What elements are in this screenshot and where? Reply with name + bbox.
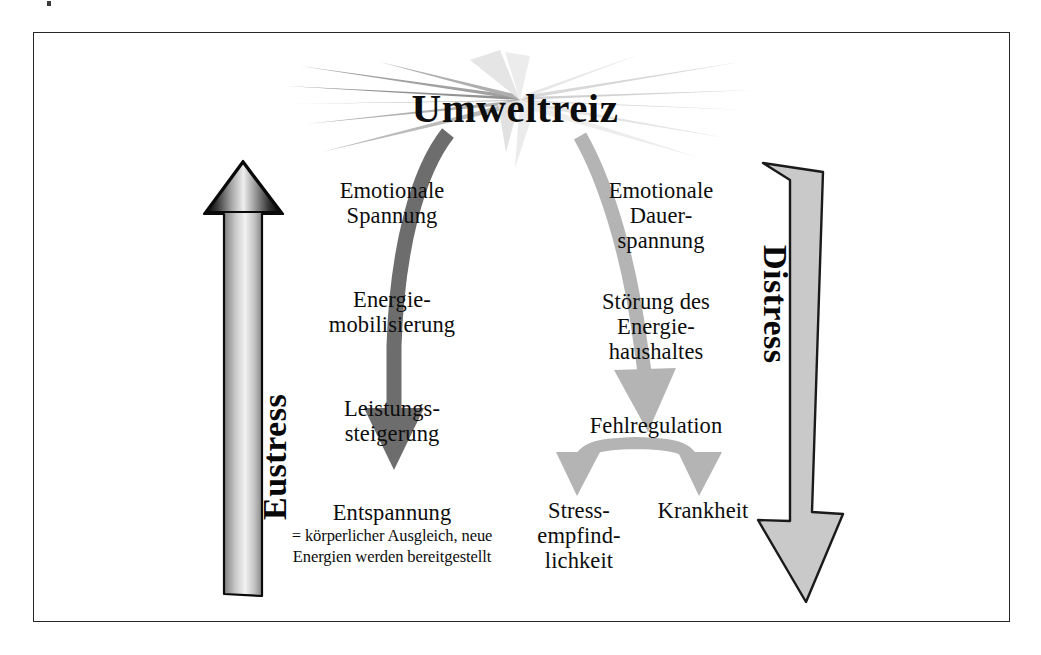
node-emotionale-spannung: Emotionale Spannung (297, 178, 487, 228)
node-entspannung-detail: = körperlicher Ausgleich, neue Energien … (272, 526, 512, 567)
node-krankheit: Krankheit (633, 498, 773, 523)
eustress-label: Eustress (256, 394, 294, 520)
node-emotionale-dauerspannung: Emotionale Dauer- spannung (566, 178, 756, 254)
node-entspannung: Entspannung (297, 500, 487, 525)
node-leistungssteigerung: Leistungs- steigerung (297, 396, 487, 446)
figure-canvas: Umweltreiz Emotionale Spannung Energie- … (0, 0, 1041, 655)
node-energiemobilisierung: Energie- mobilisierung (287, 287, 497, 337)
page-title: Umweltreiz (365, 86, 665, 132)
node-fehlregulation: Fehlregulation (546, 413, 766, 438)
distress-label: Distress (756, 245, 794, 364)
node-stoerung-energiehaushalt: Störung des Energie- haushaltes (556, 289, 756, 365)
scan-artifact (47, 1, 51, 6)
